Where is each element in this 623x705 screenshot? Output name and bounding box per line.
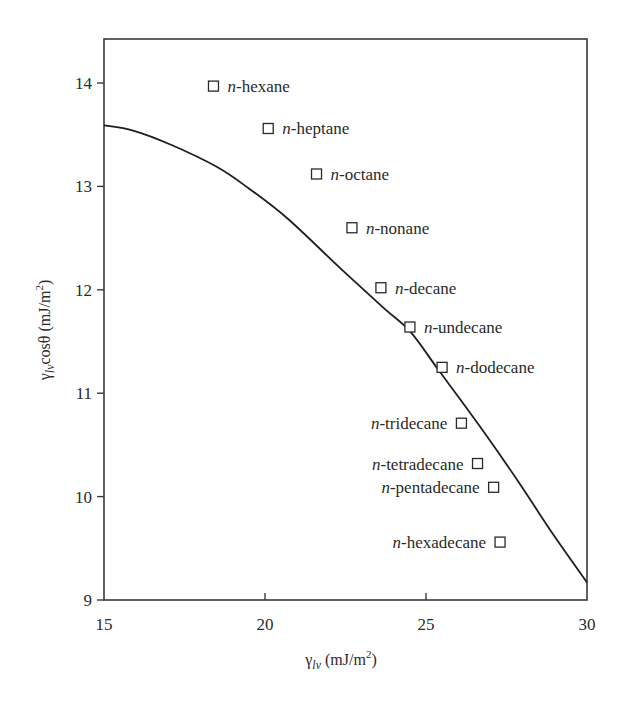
data-points: n-hexanen-heptanen-octanen-nonanen-decan…: [208, 77, 534, 552]
y-tick-label: 13: [75, 177, 92, 196]
data-point: n-hexane: [208, 77, 289, 96]
data-point: n-pentadecane: [381, 478, 498, 497]
x-tick-label: 25: [418, 615, 435, 634]
data-point: n-dodecane: [437, 358, 534, 377]
point-label: n-tridecane: [371, 414, 447, 433]
point-label: n-nonane: [366, 219, 429, 238]
x-tick-label: 20: [257, 615, 274, 634]
y-label-rest: cosθ (mJ/m: [36, 290, 54, 364]
data-point: n-undecane: [405, 318, 502, 337]
y-tick-label: 9: [84, 591, 93, 610]
x-label-close: ): [371, 651, 376, 669]
data-point: n-decane: [376, 279, 456, 298]
chart: 15202530 91011121314 n-hexanen-heptanen-…: [0, 0, 623, 705]
open-square-marker-icon: [347, 223, 357, 233]
open-square-marker-icon: [489, 482, 499, 492]
open-square-marker-icon: [473, 459, 483, 469]
data-point: n-tridecane: [371, 414, 466, 433]
point-label: n-decane: [395, 279, 456, 298]
point-label: n-dodecane: [456, 358, 534, 377]
point-label: n-hexadecane: [393, 533, 486, 552]
x-tick-label: 15: [96, 615, 113, 634]
open-square-marker-icon: [312, 169, 322, 179]
y-tick-label: 11: [76, 384, 92, 403]
point-label: n-hexane: [227, 77, 289, 96]
x-tick-label: 30: [579, 615, 596, 634]
point-label: n-heptane: [282, 119, 349, 138]
data-point: n-heptane: [263, 119, 349, 138]
theoretical-curve: [104, 125, 587, 582]
point-label: n-tetradecane: [372, 455, 464, 474]
data-point: n-tetradecane: [372, 455, 483, 474]
data-point: n-nonane: [347, 219, 429, 238]
y-label-gamma: γ: [36, 373, 54, 381]
y-label-close: ): [36, 280, 54, 285]
y-axis-ticks: 91011121314: [75, 74, 104, 610]
y-tick-label: 12: [75, 281, 92, 300]
data-point: n-octane: [312, 165, 390, 184]
open-square-marker-icon: [495, 537, 505, 547]
open-square-marker-icon: [263, 123, 273, 133]
open-square-marker-icon: [376, 283, 386, 293]
y-axis-label: γlvcosθ (mJ/m2): [33, 280, 57, 381]
y-tick-label: 10: [75, 488, 92, 507]
open-square-marker-icon: [405, 322, 415, 332]
open-square-marker-icon: [208, 81, 218, 91]
point-label: n-undecane: [424, 318, 502, 337]
x-axis-ticks: 15202530: [96, 593, 596, 634]
y-tick-label: 14: [75, 74, 93, 93]
point-label: n-octane: [331, 165, 390, 184]
point-label: n-pentadecane: [381, 478, 479, 497]
x-axis-label: γlv (mJ/m2): [304, 648, 376, 672]
x-label-gamma: γ: [304, 651, 312, 669]
open-square-marker-icon: [437, 362, 447, 372]
open-square-marker-icon: [456, 418, 466, 428]
x-label-unit: (mJ/m: [321, 651, 366, 669]
data-point: n-hexadecane: [393, 533, 505, 552]
